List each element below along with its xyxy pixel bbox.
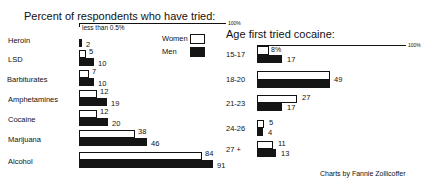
women-value: 5	[269, 118, 273, 127]
right-scale-label: 100%	[408, 42, 421, 48]
women-value: 7	[92, 67, 96, 76]
legend-women-swatch	[190, 34, 205, 44]
women-value: 5	[89, 47, 93, 56]
women-bar	[79, 152, 202, 160]
combined-value: 49	[334, 75, 342, 84]
women-bar	[79, 130, 135, 138]
men-bar	[257, 80, 330, 88]
women-bar	[257, 141, 273, 149]
women-value: 12	[100, 107, 108, 116]
men-bar	[257, 103, 282, 111]
age-label-4: 27 +	[226, 145, 241, 154]
men-value: 13	[281, 149, 289, 158]
men-bar	[79, 58, 94, 66]
women-bar	[79, 70, 89, 78]
women-value: 27	[302, 93, 310, 102]
men-value: 4	[268, 128, 272, 137]
age-label-2: 21-23	[226, 99, 245, 108]
category-label-marijuana: Marijuana	[8, 135, 41, 144]
women-value: 11	[278, 139, 286, 148]
category-label-amphetamines: Amphetamines	[8, 95, 58, 104]
women-value: 12	[100, 87, 108, 96]
men-bar	[79, 78, 94, 86]
left-scale-label: 100%	[228, 20, 241, 26]
women-bar	[79, 110, 97, 118]
men-bar	[79, 98, 107, 106]
category-label-barbiturates: Barbiturates	[7, 75, 47, 84]
left-axis-line	[79, 23, 80, 27]
men-bar	[79, 118, 108, 126]
men-value: 20	[112, 119, 120, 128]
men-value: 10	[98, 59, 106, 68]
legend-men-label: Men	[162, 47, 177, 56]
women-bar	[257, 46, 269, 55]
men-bar	[79, 39, 82, 47]
women-bar	[79, 50, 86, 58]
men-bar	[79, 138, 147, 146]
men-value: 19	[111, 99, 119, 108]
men-bar	[79, 160, 213, 168]
men-bar	[257, 128, 263, 136]
legend-women-label: Women	[162, 34, 188, 43]
category-label-heroin: Heroin	[8, 36, 30, 45]
women-value: 84	[205, 149, 213, 158]
men-value: 46	[151, 139, 159, 148]
women-bar	[257, 71, 330, 80]
women-value: 8%	[271, 46, 281, 53]
less-than-note: less than 0.5%	[82, 24, 125, 31]
age-label-0: 15-17	[226, 50, 245, 59]
right-chart-title: Age first tried cocaine:	[226, 28, 335, 40]
men-value: 91	[217, 161, 225, 170]
age-label-3: 24-26	[226, 124, 245, 133]
men-value: 17	[287, 103, 295, 112]
men-bar	[257, 55, 282, 63]
men-bar	[257, 149, 276, 157]
category-label-cocaine: Cocaine	[8, 115, 36, 124]
women-value: 38	[138, 127, 146, 136]
category-label-lsd: LSD	[8, 55, 23, 64]
age-label-1: 18-20	[226, 75, 245, 84]
legend-men-swatch	[190, 47, 205, 57]
women-bar	[257, 95, 297, 103]
men-value: 17	[287, 55, 295, 64]
chart-credit: Charts by Fannie Zollicoffer	[320, 170, 405, 177]
category-label-alcohol: Alcohol	[8, 157, 33, 166]
women-bar	[257, 120, 264, 128]
left-chart-title: Percent of respondents who have tried:	[24, 10, 215, 22]
women-bar	[79, 90, 97, 98]
